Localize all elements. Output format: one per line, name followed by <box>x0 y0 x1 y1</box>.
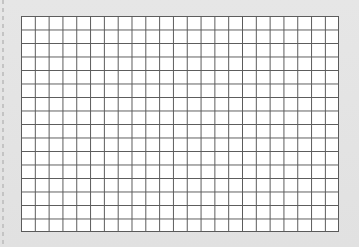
grid-area <box>21 16 339 232</box>
graph-paper-page <box>0 0 359 247</box>
perforated-edge <box>2 0 4 247</box>
